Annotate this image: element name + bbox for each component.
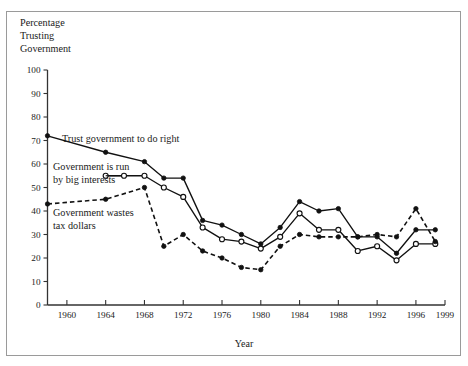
data-point-marker — [45, 134, 49, 138]
x-axis-tick-label: 1992 — [368, 310, 387, 320]
data-point-marker — [316, 227, 321, 232]
x-axis-tick-label: 1999 — [436, 310, 455, 320]
annotation-big-interests-line2: by big interests — [53, 174, 115, 185]
data-point-marker — [375, 232, 379, 236]
y-axis-tick-label: 0 — [36, 300, 41, 310]
data-point-marker — [278, 234, 283, 239]
data-point-marker — [200, 225, 205, 230]
y-axis-title-line1: Percentage — [20, 17, 65, 28]
data-point-marker — [239, 239, 244, 244]
data-point-marker — [394, 235, 398, 239]
chart-series-0 — [45, 134, 437, 256]
data-point-marker — [394, 251, 398, 255]
data-point-marker — [103, 150, 107, 154]
y-axis-tick-label: 10 — [31, 277, 41, 287]
x-axis-tick-label: 1960 — [58, 310, 77, 320]
y-axis-tick-label: 70 — [31, 136, 41, 146]
data-point-marker — [278, 225, 282, 229]
chart-series-layer — [45, 134, 438, 272]
x-axis-tick-label: 1976 — [213, 310, 232, 320]
data-point-marker — [162, 244, 166, 248]
data-point-marker — [297, 199, 301, 203]
data-point-marker — [181, 176, 185, 180]
data-point-marker — [356, 235, 360, 239]
data-point-marker — [258, 246, 263, 251]
x-axis-tick-label: 1988 — [329, 310, 348, 320]
x-axis-tick-label: 1968 — [135, 310, 154, 320]
data-point-marker — [45, 202, 49, 206]
y-axis-tick-label: 100 — [27, 65, 41, 75]
x-axis-tick-label: 1980 — [252, 310, 271, 320]
data-point-marker — [142, 173, 147, 178]
data-point-marker — [162, 176, 166, 180]
data-point-marker — [181, 232, 185, 236]
x-axis-tick-label: 1972 — [174, 310, 193, 320]
figure-container: Percentage Trusting Government 010203040… — [0, 0, 468, 366]
data-point-marker — [161, 185, 166, 190]
data-point-marker — [220, 237, 225, 242]
y-axis-tick-label: 80 — [31, 112, 41, 122]
data-point-marker — [394, 258, 399, 263]
line-chart: Percentage Trusting Government 010203040… — [0, 0, 468, 366]
data-point-marker — [142, 185, 146, 189]
y-axis-tick-label: 60 — [31, 159, 41, 169]
data-point-marker — [220, 256, 224, 260]
data-point-marker — [181, 194, 186, 199]
annotation-wastes-tax-line1: Government wastes — [53, 207, 134, 218]
x-axis-tick-label: 1964 — [96, 310, 115, 320]
y-axis-tick-label: 50 — [31, 183, 41, 193]
annotation-leader-marker — [122, 173, 127, 178]
data-point-marker — [278, 244, 282, 248]
data-point-marker — [336, 206, 340, 210]
y-axis-tick-label: 40 — [31, 206, 41, 216]
data-point-marker — [336, 227, 341, 232]
data-point-marker — [259, 242, 263, 246]
data-point-marker — [355, 248, 360, 253]
chart-series-1 — [103, 173, 438, 263]
x-axis-tick-label: 1996 — [407, 310, 426, 320]
y-axis-tick-label: 90 — [31, 89, 41, 99]
data-point-marker — [297, 232, 301, 236]
data-point-marker — [239, 232, 243, 236]
y-axis-tick-label: 20 — [31, 253, 41, 263]
data-point-marker — [142, 159, 146, 163]
x-axis-title: Year — [235, 338, 254, 349]
data-point-marker — [413, 241, 418, 246]
annotation-big-interests-line1: Government is run — [53, 161, 129, 172]
data-point-marker — [220, 223, 224, 227]
x-axis-tick-label: 1984 — [290, 310, 309, 320]
chart-series-2 — [45, 185, 437, 272]
y-axis-title-line3: Government — [20, 43, 71, 54]
data-point-marker — [200, 249, 204, 253]
data-point-marker — [297, 211, 302, 216]
data-point-marker — [433, 239, 437, 243]
data-point-marker — [239, 265, 243, 269]
data-point-marker — [433, 228, 437, 232]
data-point-marker — [200, 218, 204, 222]
y-axis-title-line2: Trusting — [20, 30, 54, 41]
y-axis-tick-label: 30 — [31, 230, 41, 240]
data-point-marker — [414, 206, 418, 210]
data-point-marker — [103, 197, 107, 201]
data-point-marker — [317, 235, 321, 239]
data-point-marker — [375, 244, 380, 249]
annotation-trust-government: Trust government to do right — [62, 133, 180, 144]
data-point-marker — [414, 228, 418, 232]
data-point-marker — [317, 209, 321, 213]
data-point-marker — [336, 235, 340, 239]
data-point-marker — [259, 268, 263, 272]
chart-axes: 0102030405060708090100196019641968197219… — [27, 65, 455, 320]
annotation-wastes-tax-line2: tax dollars — [53, 220, 96, 231]
